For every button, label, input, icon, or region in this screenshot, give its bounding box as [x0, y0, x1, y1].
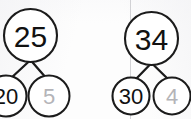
- bond-right-whole-value: 34: [135, 23, 168, 56]
- number-bond-right: 34 30 4: [0, 0, 191, 119]
- bond-right-part-left-value: 30: [119, 84, 143, 109]
- worksheet-canvas: 25 20 5 34 30 4: [0, 0, 191, 119]
- bond-right-part-right-value[interactable]: 4: [166, 84, 178, 109]
